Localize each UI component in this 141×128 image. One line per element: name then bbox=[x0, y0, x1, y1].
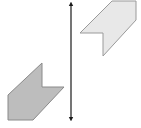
image-shape bbox=[8, 63, 64, 120]
reflection-diagram bbox=[0, 0, 141, 128]
preimage-shape bbox=[80, 1, 136, 56]
